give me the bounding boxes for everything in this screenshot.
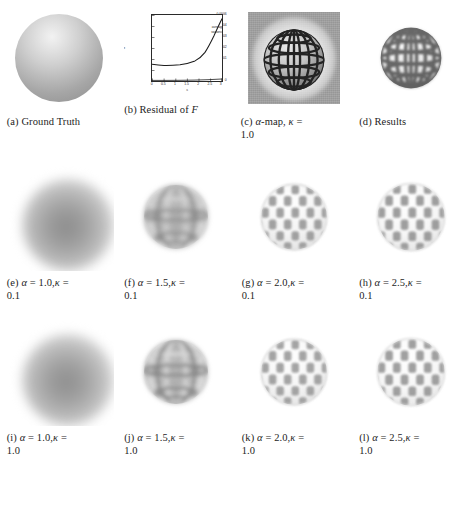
chart-ylabel: e — [124, 46, 125, 50]
panel-i-kappa-value: 1.0 — [7, 445, 20, 456]
chart-xtick-4: 2 — [197, 82, 199, 86]
chart-xlabel: s — [186, 88, 188, 92]
panel-h-kappa-glyph: κ — [408, 277, 413, 288]
panel-i-eq1: = — [28, 432, 34, 443]
panel-k-image — [239, 318, 349, 426]
panel-k-alpha-glyph: α — [257, 432, 263, 443]
panel-i-tag: (i) — [7, 432, 17, 443]
figure-grid: (a) Ground Truth 0.0006 0.0004 0.0003 0.… — [0, 0, 470, 508]
panel-h-alpha-glyph: α — [375, 277, 381, 288]
panel-e-image — [4, 163, 114, 271]
panel-l-alpha-value: 2.5 — [389, 432, 402, 443]
panel-h-eq1: = — [383, 277, 389, 288]
panel-e-tag: (e) — [7, 277, 19, 288]
panel-c-caption: (c) α-map, κ = 1.0 — [241, 116, 347, 141]
legend-entry-variance: variance of F — [188, 30, 223, 35]
panel-l-eq2: = — [413, 432, 419, 443]
panel-c-kappa-glyph: κ — [289, 116, 294, 127]
panel-e-alpha-glyph: α — [21, 277, 27, 288]
panel-e-alpha-value: 1.0 — [39, 277, 52, 288]
panel-l-tag: (l) — [359, 432, 369, 443]
results-sphere-svg — [371, 18, 451, 98]
panel-h-alpha-value: 2.5 — [392, 277, 405, 288]
panel-b-caption: (b) Residual of F — [124, 104, 228, 117]
panel-e-caption: (e) α = 1.0,κ = 0.1 — [7, 277, 111, 302]
blur-sphere-render — [22, 334, 114, 426]
results-image — [359, 6, 463, 110]
panel-k-eq2: = — [298, 432, 304, 443]
residual-chart: 0.0006 0.0004 0.0003 0.0002 0.0001 0 e — [124, 6, 228, 102]
panel-b-caption-prefix: (b) Residual of — [124, 104, 191, 115]
chart-xtick-3: 1.5 — [184, 82, 189, 86]
panel-j-alpha-glyph: α — [137, 432, 143, 443]
chart-plot-area: average of F variance of F — [151, 14, 223, 82]
panel-j-image — [121, 318, 231, 426]
panel-i-alpha-value: 1.0 — [37, 432, 50, 443]
panel-f-eq2: = — [179, 277, 185, 288]
alpha-map-mesh-sphere — [256, 22, 332, 98]
panel-i-result: (i) α = 1.0,κ = 1.0 — [0, 318, 118, 483]
chart-legend: average of F variance of F — [188, 25, 223, 35]
panel-i-kappa-glyph: κ — [53, 432, 58, 443]
ground-truth-image — [7, 6, 111, 110]
panel-c-kappa-value: 1.0 — [241, 129, 254, 140]
panel-d-caption: (d) Results — [359, 116, 463, 129]
panel-j-eq1: = — [146, 432, 152, 443]
panel-l-alpha-glyph: α — [372, 432, 378, 443]
chart-xtick-0: 0 — [151, 82, 153, 86]
panel-g-eq2: = — [298, 277, 304, 288]
panel-k-alpha-value: 2.0 — [274, 432, 287, 443]
panel-k-tag: (k) — [242, 432, 255, 443]
figure-row-2: (e) α = 1.0,κ = 0.1 — [0, 163, 470, 323]
panel-i-eq2: = — [61, 432, 67, 443]
panel-l-kappa-value: 1.0 — [359, 445, 372, 456]
alpha-map-canvas — [248, 12, 340, 104]
panel-h-eq2: = — [416, 277, 422, 288]
panel-k-result: (k) α = 2.0,κ = 1.0 — [235, 318, 353, 483]
panel-h-image — [356, 163, 466, 271]
panel-e-kappa-glyph: κ — [55, 277, 60, 288]
faint-checker-sphere-svg-j — [135, 331, 217, 413]
panel-l-caption: (l) α = 2.5,κ = 1.0 — [359, 432, 463, 457]
panel-k-kappa-glyph: κ — [290, 432, 295, 443]
panel-f-tag: (f) — [124, 277, 135, 288]
panel-h-caption: (h) α = 2.5,κ = 0.1 — [359, 277, 463, 302]
panel-g-result: (g) α = 2.0,κ = 0.1 — [235, 163, 353, 323]
smooth-sphere-render — [15, 14, 103, 102]
panel-l-result: (l) α = 2.5,κ = 1.0 — [353, 318, 470, 483]
panel-j-alpha-value: 1.5 — [154, 432, 167, 443]
panel-i-alpha-glyph: α — [20, 432, 26, 443]
panel-f-alpha-value: 1.5 — [155, 277, 168, 288]
panel-b-caption-symbol: F — [191, 104, 198, 115]
panel-c-equals: = — [296, 116, 302, 127]
panel-a-ground-truth: (a) Ground Truth — [0, 6, 118, 156]
panel-j-caption: (j) α = 1.5,κ = 1.0 — [124, 432, 228, 457]
figure-row-3: (i) α = 1.0,κ = 1.0 — [0, 318, 470, 483]
panel-l-image — [356, 318, 466, 426]
panel-e-eq2: = — [63, 277, 69, 288]
legend-label-variance: variance of F — [211, 30, 223, 35]
figure-row-1: (a) Ground Truth 0.0006 0.0004 0.0003 0.… — [0, 6, 470, 156]
checker-sphere-svg-l — [368, 329, 454, 415]
panel-f-alpha-glyph: α — [138, 277, 144, 288]
results-grid-sphere — [371, 18, 451, 98]
panel-g-tag: (g) — [242, 277, 255, 288]
panel-f-result: (f) α = 1.5,κ = 0.1 — [118, 163, 236, 323]
chart-xtick-1: 0.5 — [161, 82, 166, 86]
checker-sphere-svg-g — [252, 175, 336, 259]
panel-f-image — [121, 163, 231, 271]
panel-g-alpha-value: 2.0 — [274, 277, 287, 288]
panel-g-kappa-value: 0.1 — [242, 290, 255, 301]
panel-j-kappa-glyph: κ — [171, 432, 176, 443]
panel-h-kappa-value: 0.1 — [359, 290, 372, 301]
panel-l-eq1: = — [381, 432, 387, 443]
panel-g-image — [239, 163, 349, 271]
panel-a-caption: (a) Ground Truth — [7, 116, 111, 129]
faint-checker-sphere-svg — [135, 176, 217, 258]
panel-h-tag: (h) — [359, 277, 372, 288]
checker-sphere-svg-k — [252, 330, 336, 414]
panel-c-alpha-map: (c) α-map, κ = 1.0 — [235, 6, 353, 156]
panel-j-result: (j) α = 1.5,κ = 1.0 — [118, 318, 236, 483]
checker-sphere-svg-h — [368, 174, 454, 260]
panel-i-caption: (i) α = 1.0,κ = 1.0 — [7, 432, 111, 457]
